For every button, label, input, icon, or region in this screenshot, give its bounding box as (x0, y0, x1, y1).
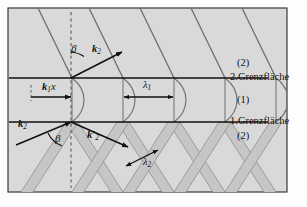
k1x-suffix: x (51, 81, 56, 92)
interface-label-lower: 1.Grenzfläche (230, 116, 289, 127)
beta-upper-label: β (71, 43, 76, 54)
beta-lower-label: β (55, 133, 60, 144)
figure-panel: (2) 2.Grenzfläche (1) 1.Grenzfläche (2) … (0, 0, 307, 207)
lambda1-label: λ1 (143, 80, 151, 92)
region-label-above: (2) (237, 58, 249, 69)
diagram-canvas (0, 0, 307, 207)
interface-label-upper: 2.Grenzfläche (230, 72, 289, 83)
k2-lower-sub: 2 (23, 123, 27, 131)
lambda1-sub: 1 (148, 84, 152, 92)
k1x-label: k1x (42, 82, 56, 94)
region-label-middle: (1) (237, 95, 249, 106)
k2-prime-sub: 2 (95, 134, 99, 142)
k2-prime-label: k′2 (87, 130, 99, 142)
k2-upper-sub: 2 (97, 48, 101, 56)
lambda2-label: λ2 (143, 157, 151, 169)
region-label-below: (2) (237, 131, 249, 142)
lambda2-sub: 2 (148, 161, 152, 169)
k2-lower-label: k2 (18, 119, 27, 131)
k2-upper-label: k2 (92, 44, 101, 56)
